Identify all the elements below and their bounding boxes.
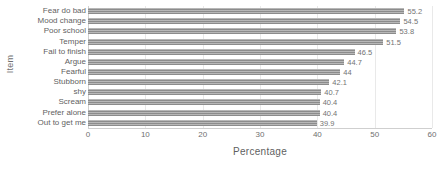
bar-row: Fear do bad55.2 (0, 6, 443, 16)
bar-value-label: 40.4 (320, 98, 338, 107)
bar-track (88, 59, 344, 65)
bar-track (88, 99, 320, 105)
x-axis-title: Percentage (88, 146, 432, 157)
bar-track (88, 69, 340, 75)
bar-value-label: 44 (340, 68, 351, 77)
bar-row: Prefer alone40.4 (0, 108, 443, 118)
bar-track (88, 110, 320, 116)
bar[interactable] (88, 89, 321, 95)
bar[interactable] (88, 120, 317, 126)
bar[interactable] (88, 69, 340, 75)
bar[interactable] (88, 110, 320, 116)
plot-area: Fear do bad55.2Mood change54.5Poor schoo… (0, 0, 443, 132)
bar-value-label: 40.4 (320, 108, 338, 117)
category-label: Stubborn (0, 77, 86, 87)
bar-row: Out to get me39.9 (0, 118, 443, 128)
x-tick-label: 10 (141, 130, 150, 139)
bar-track (88, 39, 383, 45)
x-tick-label: 60 (428, 130, 437, 139)
bar-value-label: 51.5 (383, 37, 401, 46)
x-tick-label: 30 (256, 130, 265, 139)
bar-row: Mood change54.5 (0, 16, 443, 26)
bar-row: Argue44.7 (0, 57, 443, 67)
bar[interactable] (88, 49, 355, 55)
category-label: Fail to finish (0, 47, 86, 57)
bar-row: shy40.7 (0, 87, 443, 97)
x-tick-label: 40 (313, 130, 322, 139)
bar-value-label: 53.8 (396, 27, 414, 36)
category-label: Prefer alone (0, 108, 86, 118)
bar-value-label: 40.7 (321, 88, 339, 97)
bar[interactable] (88, 79, 329, 85)
x-tick-label: 50 (370, 130, 379, 139)
bar-value-label: 55.2 (404, 7, 422, 16)
category-label: Mood change (0, 16, 86, 26)
category-label: Fear do bad (0, 6, 86, 16)
bar-value-label: 44.7 (344, 57, 362, 66)
bar-track (88, 28, 396, 34)
bar-row: Fearful44 (0, 67, 443, 77)
category-label: Out to get me (0, 118, 86, 128)
bar-chart: Item Fear do bad55.2Mood change54.5Poor … (0, 0, 443, 171)
x-axis-ticks: 0102030405060 (0, 130, 443, 144)
bar-track (88, 18, 400, 24)
bar-row: Scream40.4 (0, 97, 443, 107)
bar-value-label: 54.5 (400, 17, 418, 26)
bar-track (88, 120, 317, 126)
bar-row: Fail to finish46.5 (0, 47, 443, 57)
bar[interactable] (88, 99, 320, 105)
bar-value-label: 42.1 (329, 78, 347, 87)
bar-track (88, 49, 355, 55)
bar[interactable] (88, 39, 383, 45)
x-tick-label: 20 (198, 130, 207, 139)
bar-track (88, 8, 404, 14)
bar-series: Fear do bad55.2Mood change54.5Poor schoo… (0, 6, 443, 128)
bar-value-label: 46.5 (355, 47, 373, 56)
bar-row: Poor school53.8 (0, 26, 443, 36)
category-label: Poor school (0, 26, 86, 36)
bar[interactable] (88, 59, 344, 65)
bar-row: Temper51.5 (0, 36, 443, 46)
bar[interactable] (88, 28, 396, 34)
category-label: Scream (0, 97, 86, 107)
x-axis-line (88, 128, 432, 129)
category-label: Temper (0, 37, 86, 47)
category-label: Fearful (0, 67, 86, 77)
category-label: Argue (0, 57, 86, 67)
bar-value-label: 39.9 (317, 118, 335, 127)
bar-row: Stubborn42.1 (0, 77, 443, 87)
bar-track (88, 89, 321, 95)
bar[interactable] (88, 18, 400, 24)
bar[interactable] (88, 8, 404, 14)
category-label: shy (0, 87, 86, 97)
bar-track (88, 79, 329, 85)
x-tick-label: 0 (86, 130, 90, 139)
